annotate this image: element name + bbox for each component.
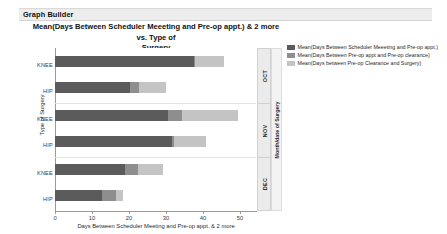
x-axis-tick	[203, 211, 204, 214]
x-axis-tick-label: 10	[82, 215, 102, 221]
x-axis-tick	[129, 211, 130, 214]
bar-segment-3	[138, 164, 163, 175]
bar-segment-3	[139, 82, 166, 93]
y-category-label: HIP	[19, 88, 53, 95]
plot-area	[55, 48, 257, 211]
bar-row[interactable]	[55, 164, 163, 175]
x-axis-tick-label: 40	[193, 215, 213, 221]
y-category-label: KNEE	[19, 170, 53, 177]
legend-label: Mean(Days Between Pre-op appt and Pre-op…	[298, 52, 430, 59]
chart-legend: Mean(Days Between Scheduler Meeeting and…	[287, 44, 447, 68]
panel-group-cell-dec: DEC	[258, 158, 272, 210]
legend-swatch-icon	[287, 45, 295, 50]
bar-segment-3	[174, 136, 206, 147]
legend-label: Mean(Days between Pre-op Clearance and S…	[298, 60, 422, 67]
panel-group-cell-oct: OCT	[258, 49, 272, 104]
y-category-label: KNEE	[19, 116, 53, 123]
panel-group-cell-nov: NOV	[258, 104, 272, 158]
bar-row[interactable]	[55, 110, 238, 121]
x-axis-tick	[166, 211, 167, 214]
graph-builder-title: Graph Builder	[23, 10, 74, 19]
legend-item[interactable]: Mean(Days Between Scheduler Meeeting and…	[287, 44, 447, 51]
x-axis-tick-label: 0	[45, 215, 65, 221]
x-axis-title: Days Between Scheduler Meeting and Pre-o…	[55, 223, 257, 229]
bar-segment-2	[125, 164, 138, 175]
bar-segment-1	[55, 190, 102, 201]
panel-group-label: DEC	[262, 178, 268, 190]
y-category-label: HIP	[19, 196, 53, 203]
bar-segment-2	[102, 190, 116, 201]
panel-group-strip: OCT NOV DEC	[257, 48, 271, 211]
bar-segment-1	[55, 110, 168, 121]
bar-segment-1	[55, 136, 172, 147]
panel-separator	[55, 157, 256, 158]
y-category-label: HIP	[19, 142, 53, 149]
panel-separator	[55, 103, 256, 104]
bar-segment-3	[182, 110, 238, 121]
legend-item[interactable]: Mean(Days between Pre-op Clearance and S…	[287, 60, 447, 67]
bar-segment-3	[116, 190, 123, 201]
x-axis-tick	[92, 211, 93, 214]
legend-swatch-icon	[287, 53, 295, 58]
x-axis-tick-label: 30	[156, 215, 176, 221]
graph-builder-screen: Graph Builder Mean(Days Between Schedule…	[0, 0, 447, 234]
x-axis-tick	[55, 211, 56, 214]
panel-group-axis-label: Month/date of Surgery	[274, 101, 280, 158]
legend-swatch-icon	[287, 61, 295, 66]
bar-row[interactable]	[55, 56, 224, 67]
bar-segment-2	[168, 110, 182, 121]
x-axis-line	[55, 211, 257, 212]
panel-group-label: OCT	[262, 70, 268, 82]
x-axis-tick-label: 20	[119, 215, 139, 221]
graph-builder-panel: Graph Builder Mean(Days Between Schedule…	[19, 8, 432, 223]
bar-row[interactable]	[55, 82, 166, 93]
bar-segment-1	[55, 82, 130, 93]
y-axis-title: Type of Surgery	[39, 75, 45, 155]
legend-label: Mean(Days Between Scheduler Meeeting and…	[298, 44, 438, 51]
bar-row[interactable]	[55, 136, 206, 147]
x-axis-tick-label: 50	[230, 215, 250, 221]
panel-group-label: NOV	[262, 124, 268, 137]
y-category-label: KNEE	[19, 62, 53, 69]
bar-segment-1	[55, 164, 125, 175]
bar-segment-1	[55, 56, 194, 67]
graph-builder-header: Graph Builder	[19, 8, 432, 21]
bar-row[interactable]	[55, 190, 123, 201]
chart-title-line-1: Mean(Days Between Scheduler Meeeting and…	[33, 22, 279, 42]
legend-item[interactable]: Mean(Days Between Pre-op appt and Pre-op…	[287, 52, 447, 59]
y-axis-labels: KNEE HIP KNEE HIP KNEE HIP	[19, 48, 53, 211]
panel-group-axis-title: Month/date of Surgery	[271, 48, 282, 211]
x-axis-tick	[240, 211, 241, 214]
bar-segment-2	[130, 82, 139, 93]
bar-segment-3	[195, 56, 224, 67]
